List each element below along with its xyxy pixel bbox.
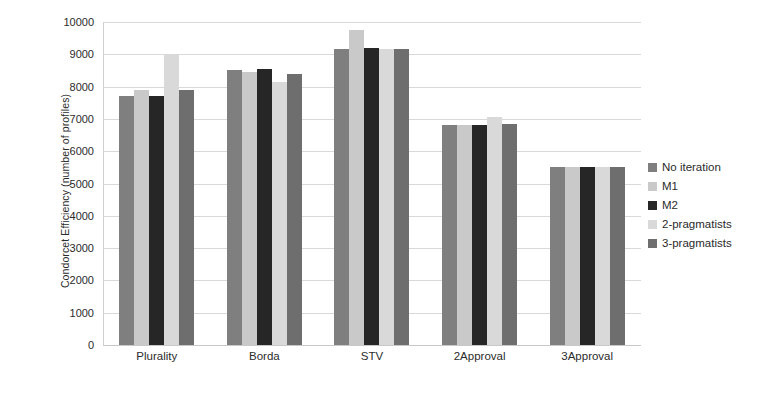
bar	[334, 49, 349, 345]
y-tick-label: 5000	[22, 178, 94, 190]
bar-group	[103, 22, 211, 345]
bar	[394, 49, 409, 345]
x-category-label: Borda	[249, 350, 280, 362]
legend-label: M2	[662, 200, 678, 212]
bar-group	[211, 22, 319, 345]
bar	[472, 125, 487, 345]
legend-swatch-icon	[648, 220, 657, 229]
bar	[257, 69, 272, 345]
bar	[457, 125, 472, 345]
bar	[565, 167, 580, 345]
bar	[164, 54, 179, 345]
bar	[502, 124, 517, 345]
x-category-label: STV	[361, 350, 383, 362]
legend-swatch-icon	[648, 201, 657, 210]
gridline	[103, 345, 641, 346]
x-category-label: 2Approval	[454, 350, 506, 362]
bar-group	[533, 22, 641, 345]
y-tick-label: 4000	[22, 210, 94, 222]
bar	[610, 167, 625, 345]
y-tick-label: 6000	[22, 145, 94, 157]
plot-area	[103, 22, 641, 345]
legend-item[interactable]: 2-pragmatists	[648, 215, 774, 234]
y-tick-label: 8000	[22, 81, 94, 93]
bar	[227, 70, 242, 345]
y-tick-label: 10000	[22, 16, 94, 28]
bar	[379, 49, 394, 345]
legend-item[interactable]: 3-pragmatists	[648, 234, 774, 253]
x-category-label: Plurality	[136, 350, 177, 362]
bar	[287, 74, 302, 345]
bar-group	[318, 22, 426, 345]
y-tick-label: 0	[22, 339, 94, 351]
y-tick-label: 1000	[22, 307, 94, 319]
bar	[349, 30, 364, 345]
bar	[442, 125, 457, 345]
bar	[550, 167, 565, 345]
legend-label: 2-pragmatists	[662, 219, 732, 231]
bar	[487, 117, 502, 345]
legend-item[interactable]: M2	[648, 196, 774, 215]
bar	[179, 90, 194, 345]
bar-group	[426, 22, 534, 345]
bar	[364, 48, 379, 345]
legend-swatch-icon	[648, 163, 657, 172]
x-axis-category-labels: PluralityBordaSTV2Approval3Approval	[103, 350, 641, 370]
legend-item[interactable]: No iteration	[648, 158, 774, 177]
bar	[242, 72, 257, 345]
bars-layer	[103, 22, 641, 345]
y-tick-label: 7000	[22, 113, 94, 125]
y-tick-label: 9000	[22, 48, 94, 60]
bar	[595, 167, 610, 345]
legend-label: M1	[662, 181, 678, 193]
bar	[149, 96, 164, 345]
y-tick-label: 3000	[22, 242, 94, 254]
legend-label: 3-pragmatists	[662, 238, 732, 250]
chart-legend: No iterationM1M22-pragmatists3-pragmatis…	[648, 158, 774, 253]
bar	[134, 90, 149, 345]
bar	[272, 82, 287, 345]
legend-label: No iteration	[662, 162, 721, 174]
y-tick-label: 2000	[22, 274, 94, 286]
bar-chart: Condorcet Efficiency (number of profiles…	[0, 0, 776, 395]
legend-swatch-icon	[648, 182, 657, 191]
legend-swatch-icon	[648, 239, 657, 248]
bar	[119, 96, 134, 345]
bar	[580, 167, 595, 345]
legend-item[interactable]: M1	[648, 177, 774, 196]
x-category-label: 3Approval	[561, 350, 613, 362]
